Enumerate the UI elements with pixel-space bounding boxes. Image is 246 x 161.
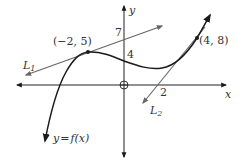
- y-axis-label: y: [128, 4, 136, 17]
- l1-y-intercept-label: 7: [115, 26, 122, 39]
- l2-x-intercept-label: 2: [160, 86, 167, 99]
- l1-label: L1: [22, 59, 35, 73]
- point-label-neg2-5: (−2, 5): [53, 35, 92, 48]
- point-label-4-8: (4, 8): [199, 34, 229, 47]
- point-marker-neg2-5: [86, 50, 90, 54]
- function-curve: [45, 15, 210, 141]
- tangent-line-l1: [26, 26, 162, 75]
- x-axis-label: x: [225, 88, 232, 101]
- function-graph: y x (−2, 5) (4, 8) 7 4 2 L1 L2 y=f(x): [0, 0, 246, 161]
- curve-label: y=f(x): [52, 132, 89, 145]
- curve-y-intercept-label: 4: [127, 48, 134, 61]
- l2-label: L2: [149, 104, 162, 118]
